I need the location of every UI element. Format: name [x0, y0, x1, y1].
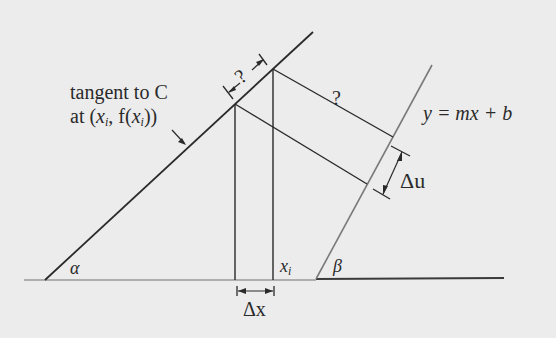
tangent-label-line1: tangent to C — [70, 80, 168, 104]
tangent-label-line2: at (xi, f(xi)) — [70, 104, 168, 134]
x-i-base: x — [280, 256, 288, 276]
x-i-sub: i — [288, 264, 291, 278]
line-equation-label: y = mx + b — [423, 103, 512, 123]
tangent-label-x: x — [96, 105, 105, 127]
arrowhead-icon — [265, 288, 273, 294]
arrowhead-icon — [397, 151, 402, 161]
tangent-label: tangent to C at (xi, f(xi)) — [70, 80, 168, 134]
delta-u-label: Δu — [400, 170, 425, 192]
tangent-label-x2: x — [132, 105, 141, 127]
tangent-label-suffix: )) — [144, 105, 157, 127]
beta-angle-label: β — [333, 257, 342, 275]
alpha-angle-label: α — [70, 259, 79, 277]
x-i-label: xi — [280, 257, 291, 277]
unknown-perpendicular-label: ? — [332, 88, 341, 108]
diagram-canvas — [0, 0, 556, 338]
tangent-dim-tick-left — [223, 86, 233, 99]
delta-x-label: Δx — [243, 299, 266, 319]
arrowhead-icon — [238, 288, 246, 294]
arrowhead-icon — [383, 185, 388, 195]
perpendicular-bottom — [235, 104, 367, 184]
arrowhead-icon — [178, 138, 186, 145]
tangent-label-prefix: at ( — [70, 105, 96, 127]
x-axis-line-right — [316, 278, 504, 279]
du-tick-bottom — [373, 189, 390, 199]
tangent-label-mid: , f( — [108, 105, 131, 127]
